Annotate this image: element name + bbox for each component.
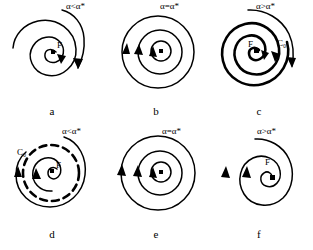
closed-orbit-outer-e: [121, 136, 195, 210]
cycle-label-d: C₀: [17, 147, 26, 157]
center-marker-e: [159, 170, 163, 174]
panel-b: α=α* b: [104, 0, 208, 125]
panel-c: F C₀ α>α* c: [207, 0, 311, 125]
arrowhead-middle-e: [133, 165, 142, 177]
fixed-point-label-c: F: [248, 39, 253, 49]
arrowhead-outer-f: [221, 166, 230, 178]
panel-d: F C₀ α<α* d: [0, 125, 104, 250]
arrowhead-inner-b: [149, 46, 157, 57]
param-label-d: α<α*: [62, 126, 81, 136]
caption-d: d: [0, 228, 104, 240]
param-label-c: α>α*: [256, 1, 275, 11]
fixed-point-label-f: F: [265, 157, 270, 167]
caption-e: e: [104, 228, 208, 240]
caption-a: a: [0, 105, 104, 117]
arrowhead-outer-d: [14, 166, 22, 177]
panel-f: F α>α* f: [207, 125, 311, 250]
spiral-trajectory-a: [13, 20, 76, 75]
param-label-e: α=α*: [162, 126, 181, 136]
arrowhead-outer-a: [73, 58, 83, 69]
arrowhead-outer-c: [287, 57, 296, 68]
panel-a: F α<α* a: [0, 0, 104, 125]
arrowhead-inner-e: [149, 167, 157, 178]
caption-c: c: [207, 105, 311, 117]
fixed-point-marker-a: [51, 50, 55, 54]
caption-f: f: [207, 228, 311, 240]
param-label-f: α>α*: [257, 126, 276, 136]
arrowhead-outer-e: [117, 164, 126, 176]
param-label-a: α<α*: [66, 1, 85, 11]
closed-orbit-outer-b: [122, 16, 194, 88]
arrowhead-inner-a: [57, 54, 66, 64]
cycle-label-c: C₀: [277, 38, 286, 48]
fixed-point-marker-f: [270, 175, 275, 180]
fixed-point-marker-d: [50, 169, 54, 173]
panel-e: α=α* e: [104, 125, 208, 250]
fixed-point-label-d: F: [56, 160, 61, 170]
figure-phase-portraits: F α<α* a α=α* b: [0, 0, 313, 250]
fixed-point-label-a: F: [57, 40, 62, 50]
arrowhead-middle-b: [134, 44, 143, 55]
fixed-point-marker-c: [254, 48, 259, 53]
caption-b: b: [104, 105, 208, 117]
param-label-b: α=α*: [160, 1, 179, 11]
center-marker-b: [159, 49, 163, 53]
